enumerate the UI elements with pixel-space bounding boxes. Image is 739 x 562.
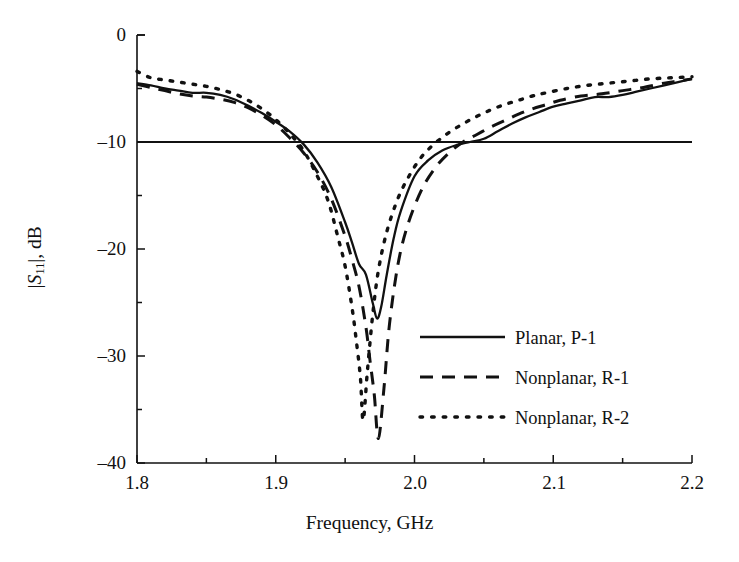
y-axis-title-symbol: S	[24, 275, 45, 285]
legend-label-nonplanar-r-2: Nonplanar, R-2	[515, 408, 629, 429]
axis-lines	[137, 35, 692, 463]
legend-line-keys	[420, 337, 505, 417]
axis-ticks	[137, 35, 692, 463]
ytick-label-10: –10	[78, 132, 126, 151]
ytick-label-40: –40	[78, 453, 126, 472]
figure-s11-return-loss: 0 –10 –20 –30 –40 1.8 1.9 2.0 2.1 2.2 Fr…	[0, 0, 739, 562]
y-axis-title-unit: |, dB	[24, 226, 45, 262]
y-axis-title-bar-open: |	[24, 285, 45, 289]
xtick-label-2-0: 2.0	[385, 473, 445, 492]
ytick-label-30: –30	[78, 346, 126, 365]
legend-label-nonplanar-r-1: Nonplanar, R-1	[515, 368, 629, 389]
xtick-label-2-1: 2.1	[524, 473, 584, 492]
xtick-label-1-8: 1.8	[107, 473, 167, 492]
y-axis-title: |S11|, dB	[24, 177, 49, 337]
ytick-label-20: –20	[78, 239, 126, 258]
x-axis-title: Frequency, GHz	[0, 512, 739, 534]
xtick-label-1-9: 1.9	[246, 473, 306, 492]
xtick-label-2-2: 2.2	[662, 473, 722, 492]
series-line-1	[137, 79, 692, 319]
legend-label-planar-p-1: Planar, P-1	[515, 328, 596, 349]
y-axis-title-subscript: 11	[32, 263, 47, 275]
ytick-label-0: 0	[78, 25, 126, 44]
